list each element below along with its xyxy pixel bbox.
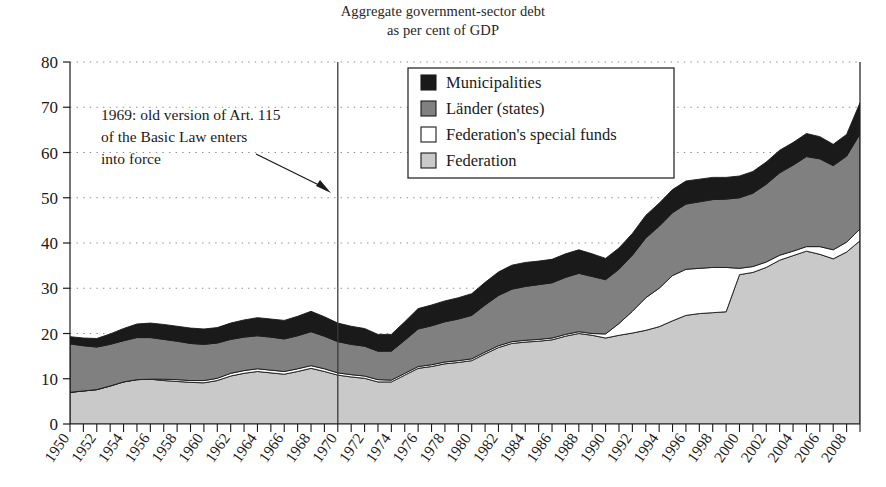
- annotation-group: 1969: old version of Art. 115 of the Bas…: [101, 106, 331, 193]
- x-tick-label-1982: 1982: [469, 430, 501, 465]
- x-tick-label-1960: 1960: [175, 430, 207, 465]
- y-tick-label-40: 40: [41, 234, 58, 253]
- x-tick-label-1992: 1992: [603, 430, 635, 465]
- y-tick-label-10: 10: [41, 370, 58, 389]
- legend-label-0: Municipalities: [446, 73, 541, 92]
- x-tick-label-2002: 2002: [737, 430, 769, 465]
- x-tick-label-1956: 1956: [121, 430, 153, 465]
- x-tick-label-1978: 1978: [416, 430, 448, 465]
- x-tick-label-1966: 1966: [255, 430, 287, 465]
- y-tick-group: 01020304050607080: [41, 53, 70, 434]
- annotation-line-1: 1969: old version of Art. 115: [101, 106, 281, 123]
- chart-title-line-1: Aggregate government-sector debt: [0, 2, 886, 21]
- y-tick-label-20: 20: [41, 325, 58, 344]
- x-tick-label-2008: 2008: [817, 430, 849, 465]
- x-tick-label-1996: 1996: [657, 430, 689, 465]
- chart-figure: Aggregate government-sector debt as per …: [0, 0, 886, 487]
- legend-label-1: Länder (states): [446, 99, 545, 118]
- x-tick-label-2004: 2004: [764, 430, 796, 465]
- x-tick-label-1958: 1958: [148, 430, 180, 465]
- legend-swatch-1: [421, 101, 436, 116]
- legend-swatch-0: [421, 75, 436, 90]
- x-tick-group: 1950195219541956195819601962196419661968…: [41, 424, 860, 465]
- x-tick-label-1950: 1950: [41, 430, 73, 465]
- x-tick-label-1988: 1988: [550, 430, 582, 465]
- x-tick-label-1986: 1986: [523, 430, 555, 465]
- x-tick-label-1984: 1984: [496, 430, 528, 465]
- annotation-arrow-head: [316, 180, 331, 193]
- legend-label-3: Federation: [446, 151, 517, 170]
- x-tick-label-1980: 1980: [442, 430, 474, 465]
- y-tick-label-60: 60: [41, 144, 58, 163]
- annotation-line-3: into force: [101, 150, 161, 167]
- x-tick-label-1972: 1972: [335, 430, 367, 465]
- y-tick-label-80: 80: [41, 53, 58, 72]
- chart-title-line-2: as per cent of GDP: [0, 21, 886, 40]
- x-tick-label-1994: 1994: [630, 430, 662, 465]
- annotation-line-2: of the Basic Law enters: [101, 128, 247, 145]
- legend: MunicipalitiesLänder (states)Federation'…: [408, 68, 674, 178]
- stacked-area-plot: 01020304050607080 1950195219541956195819…: [0, 0, 886, 487]
- chart-title: Aggregate government-sector debt as per …: [0, 2, 886, 40]
- legend-swatch-3: [421, 153, 436, 168]
- x-tick-label-1974: 1974: [362, 430, 394, 465]
- x-tick-label-1976: 1976: [389, 430, 421, 465]
- y-tick-label-50: 50: [41, 189, 58, 208]
- x-tick-label-2000: 2000: [710, 430, 742, 465]
- legend-swatch-2: [421, 127, 436, 142]
- x-tick-label-2006: 2006: [791, 430, 823, 465]
- x-tick-label-1990: 1990: [576, 430, 608, 465]
- x-tick-label-1952: 1952: [68, 430, 100, 465]
- x-tick-label-1954: 1954: [94, 430, 126, 465]
- x-tick-label-1964: 1964: [228, 430, 260, 465]
- annotation-arrow-shaft: [256, 154, 325, 188]
- x-tick-label-1962: 1962: [201, 430, 233, 465]
- y-tick-label-70: 70: [41, 98, 58, 117]
- legend-label-2: Federation's special funds: [446, 125, 617, 144]
- y-tick-label-30: 30: [41, 279, 58, 298]
- x-tick-label-1968: 1968: [282, 430, 314, 465]
- x-tick-label-1998: 1998: [683, 430, 715, 465]
- x-tick-label-1970: 1970: [309, 430, 341, 465]
